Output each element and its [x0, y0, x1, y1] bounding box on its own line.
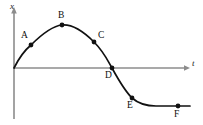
data-point-markers — [29, 23, 181, 109]
point-label-a: A — [21, 31, 28, 41]
point-label-d: D — [105, 71, 112, 81]
data-point-c — [92, 40, 97, 45]
data-point-a — [29, 43, 34, 48]
point-label-f: F — [174, 110, 179, 120]
data-point-f — [176, 104, 181, 109]
point-label-e: E — [127, 101, 133, 111]
horizontal-axis-arrowhead — [184, 65, 190, 70]
point-label-b: B — [58, 11, 64, 21]
horizontal-axis-label: t — [192, 59, 195, 68]
graph-canvas — [0, 0, 203, 125]
data-point-b — [60, 23, 65, 28]
point-label-c: C — [98, 31, 104, 41]
displacement-time-graph-figure: x t ABCDEF — [0, 0, 203, 125]
vertical-axis-label: x — [10, 2, 14, 11]
